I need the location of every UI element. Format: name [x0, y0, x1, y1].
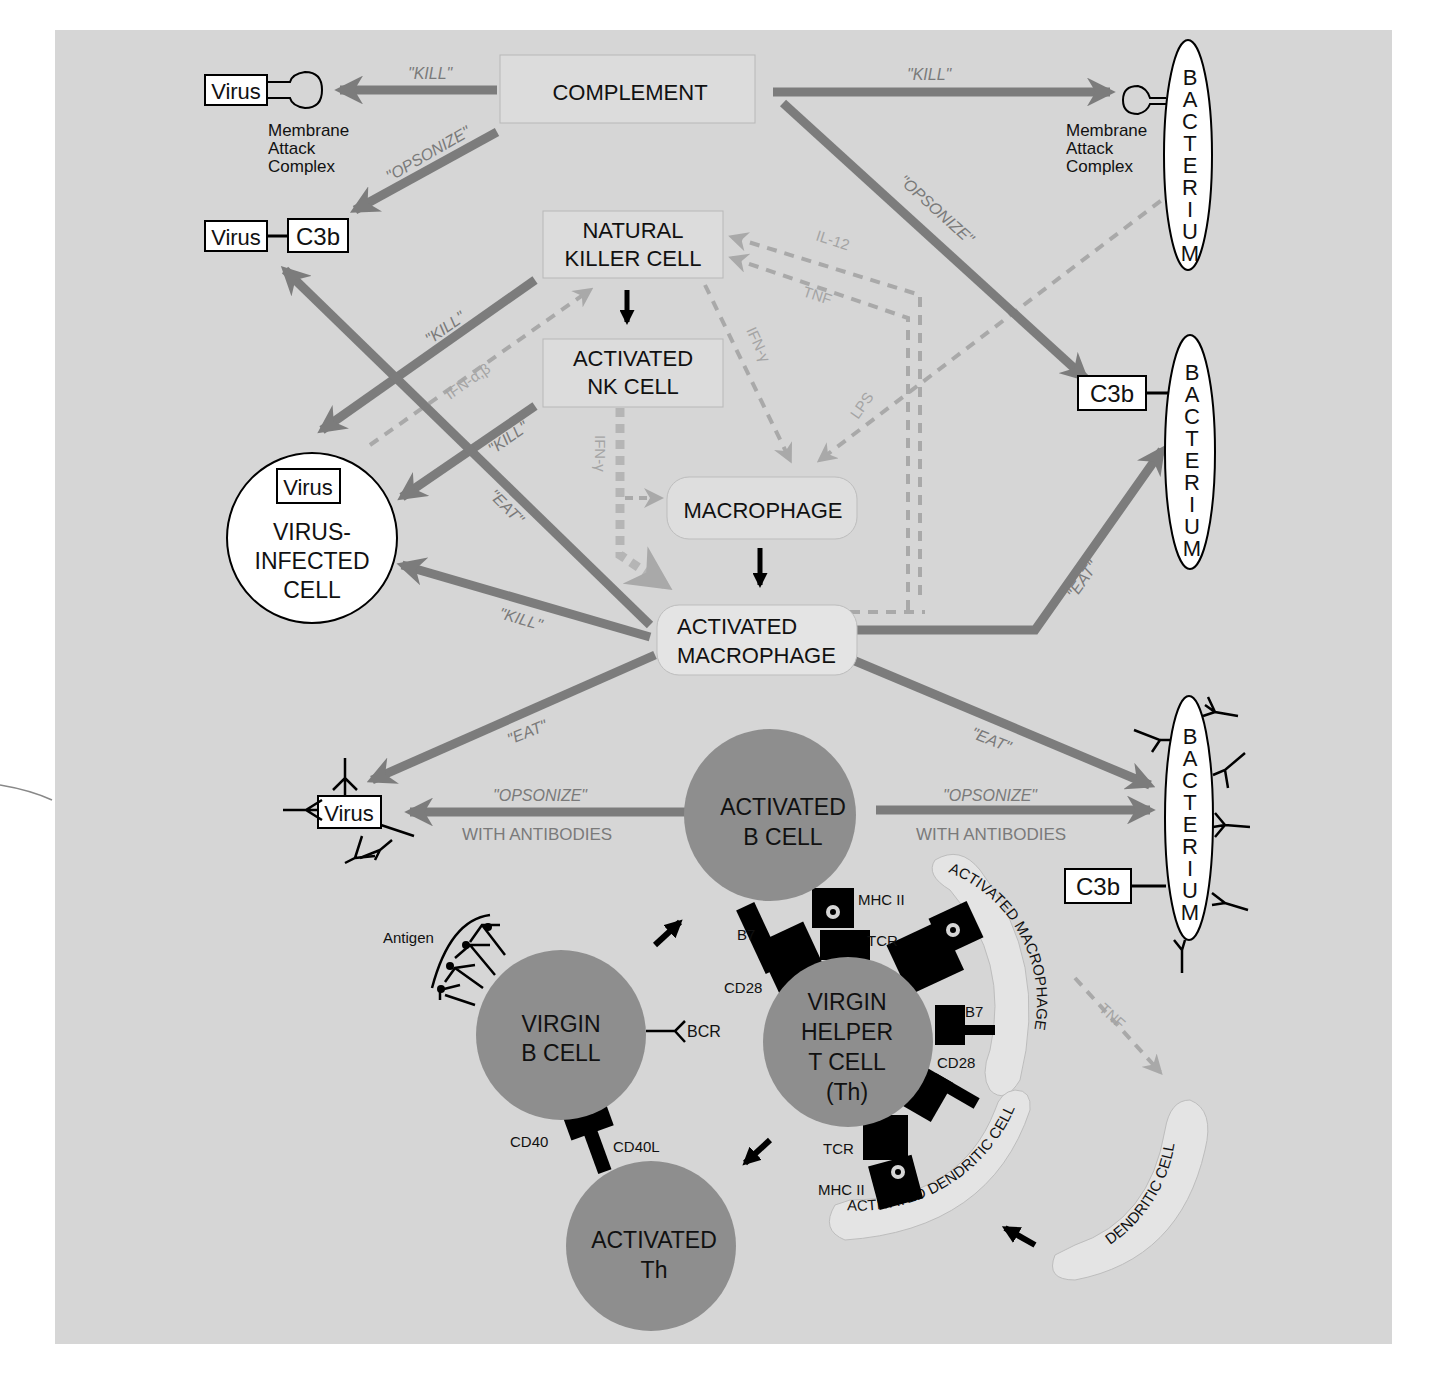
- scan-artifact: [0, 785, 52, 800]
- label-with-antibodies: WITH ANTIBODIES: [462, 825, 612, 844]
- svg-text:Virus: Virus: [324, 801, 374, 826]
- svg-text:Membrane: Membrane: [268, 121, 349, 140]
- svg-text:B CELL: B CELL: [521, 1040, 600, 1066]
- label-opsonize: "OPSONIZE": [493, 787, 588, 804]
- svg-text:C3b: C3b: [1076, 873, 1120, 900]
- label-bcr: BCR: [687, 1023, 721, 1040]
- label-mhc2: MHC II: [858, 891, 905, 908]
- label-b7: B7: [737, 926, 755, 943]
- svg-text:VIRUS-: VIRUS-: [273, 519, 351, 545]
- svg-text:M: M: [1181, 241, 1199, 266]
- svg-text:CELL: CELL: [283, 577, 341, 603]
- svg-text:M: M: [1183, 536, 1201, 561]
- activated-th-cell: ACTIVATED Th: [566, 1161, 736, 1331]
- label-cd40: CD40: [510, 1133, 548, 1150]
- svg-text:Complex: Complex: [1066, 157, 1134, 176]
- label-cd28: CD28: [724, 979, 762, 996]
- svg-text:ACTIVATED: ACTIVATED: [591, 1227, 717, 1253]
- svg-text:ACTIVATED: ACTIVATED: [573, 346, 693, 371]
- svg-text:C3b: C3b: [296, 223, 340, 250]
- svg-text:B CELL: B CELL: [743, 824, 822, 850]
- svg-text:Complex: Complex: [268, 157, 336, 176]
- svg-text:Virus: Virus: [283, 475, 333, 500]
- svg-text:MACROPHAGE: MACROPHAGE: [684, 498, 843, 523]
- label-tcr: TCR: [867, 932, 898, 949]
- label-mhc2: MHC II: [818, 1181, 865, 1198]
- activated-nk-box: ACTIVATED NK CELL: [543, 339, 723, 407]
- svg-text:M: M: [1181, 900, 1199, 925]
- label-ifn-gamma: IFN-γ: [592, 435, 609, 472]
- svg-text:NK CELL: NK CELL: [587, 374, 679, 399]
- svg-text:NATURAL: NATURAL: [582, 218, 683, 243]
- svg-text:T CELL: T CELL: [808, 1049, 886, 1075]
- label-tcr: TCR: [823, 1140, 854, 1157]
- virgin-b-cell: VIRGIN B CELL: [476, 950, 646, 1120]
- svg-text:Attack: Attack: [1066, 139, 1114, 158]
- svg-text:VIRGIN: VIRGIN: [521, 1011, 600, 1037]
- virus-label: Virus: [211, 79, 261, 104]
- complement-label: COMPLEMENT: [552, 80, 707, 105]
- label-cd40l: CD40L: [613, 1138, 660, 1155]
- label-cd28: CD28: [937, 1054, 975, 1071]
- svg-text:Membrane: Membrane: [1066, 121, 1147, 140]
- label-kill: "KILL": [907, 66, 953, 83]
- svg-text:ACTIVATED: ACTIVATED: [677, 614, 797, 639]
- virgin-helper-t-cell: VIRGIN HELPER T CELL (Th): [763, 957, 933, 1127]
- svg-text:HELPER: HELPER: [801, 1019, 893, 1045]
- svg-text:ACTIVATED: ACTIVATED: [720, 794, 846, 820]
- svg-text:Attack: Attack: [268, 139, 316, 158]
- svg-text:Th: Th: [641, 1257, 668, 1283]
- label-antigen: Antigen: [383, 929, 434, 946]
- label-opsonize: "OPSONIZE": [943, 787, 1038, 804]
- activated-b-cell: ACTIVATED B CELL: [684, 729, 856, 901]
- svg-text:C3b: C3b: [1090, 380, 1134, 407]
- activated-macrophage-box: ACTIVATED MACROPHAGE: [657, 605, 857, 675]
- label-with-antibodies: WITH ANTIBODIES: [916, 825, 1066, 844]
- complement-box: COMPLEMENT: [500, 55, 755, 123]
- svg-text:VIRGIN: VIRGIN: [807, 989, 886, 1015]
- svg-text:(Th): (Th): [826, 1079, 868, 1105]
- svg-text:MACROPHAGE: MACROPHAGE: [677, 643, 836, 668]
- macrophage-box: MACROPHAGE: [667, 477, 857, 539]
- nk-cell-box: NATURAL KILLER CELL: [543, 211, 723, 278]
- immune-interaction-diagram: "KILL" "OPSONIZE" "KILL" "OPSONIZE" "KIL…: [0, 0, 1446, 1389]
- svg-text:INFECTED: INFECTED: [255, 548, 370, 574]
- label-kill: "KILL": [408, 65, 454, 82]
- virus-infected-cell: Virus VIRUS- INFECTED CELL: [227, 453, 397, 623]
- svg-text:Virus: Virus: [211, 225, 261, 250]
- svg-text:KILLER CELL: KILLER CELL: [565, 246, 702, 271]
- label-b7: B7: [965, 1003, 983, 1020]
